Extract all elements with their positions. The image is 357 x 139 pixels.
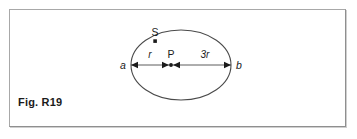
figure-caption: Fig. R19 <box>18 96 62 108</box>
arrowhead-at-a <box>131 62 138 68</box>
figure-panel-border: a b P S r 3r <box>9 9 346 127</box>
figure-container: a b P S r 3r Fig. R19 <box>0 0 357 139</box>
label-point-s: S <box>151 26 158 38</box>
label-point-b: b <box>236 59 242 71</box>
arrowhead-at-b <box>224 62 231 68</box>
arrowhead-r-end <box>162 62 169 68</box>
label-point-a: a <box>120 59 126 71</box>
label-point-p: P <box>167 48 174 60</box>
point-s-marker <box>153 39 157 43</box>
label-segment-3r: 3r <box>201 49 211 60</box>
arrowhead-3r-start <box>173 62 180 68</box>
label-segment-3r-text: 3r <box>201 49 211 60</box>
point-p-marker <box>169 63 173 67</box>
figure-drawing: a b P S r 3r <box>10 10 347 128</box>
label-segment-r: r <box>148 49 152 60</box>
